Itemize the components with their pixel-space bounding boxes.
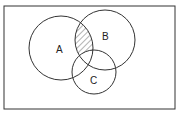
set-c-label: C [90, 75, 97, 86]
venn-diagram: A B C [0, 0, 184, 114]
set-c-circle [72, 50, 116, 94]
set-a-label: A [56, 44, 63, 55]
set-b-label: B [102, 31, 109, 42]
